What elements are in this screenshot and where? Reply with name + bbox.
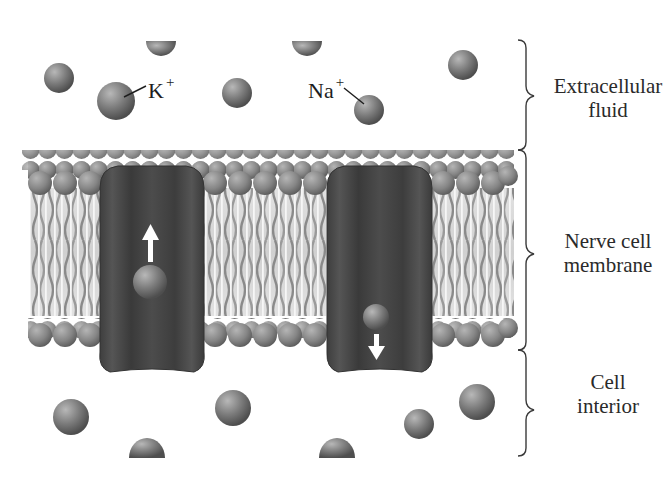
potassium-charge: + bbox=[166, 74, 174, 90]
potassium-ion-in-channel bbox=[133, 265, 167, 299]
sodium-channel bbox=[327, 166, 432, 372]
region-braces bbox=[518, 40, 534, 456]
ion bbox=[215, 390, 251, 426]
ion-channel-diagram: K+ Na+ Extracellular fluid Nerve cell me… bbox=[0, 0, 671, 479]
interior-brace bbox=[518, 350, 534, 456]
extracellular-brace bbox=[518, 40, 534, 150]
label-line: membrane bbox=[545, 253, 671, 277]
label-line: Nerve cell bbox=[545, 229, 671, 253]
label-line: Cell bbox=[545, 370, 671, 394]
ion bbox=[146, 41, 176, 56]
ion bbox=[129, 438, 165, 458]
potassium-symbol: K bbox=[148, 78, 164, 103]
ion bbox=[292, 41, 322, 56]
potassium-channel bbox=[100, 166, 205, 372]
potassium-ion bbox=[97, 82, 135, 120]
interior-ions bbox=[53, 384, 495, 458]
sodium-leader-line bbox=[344, 88, 364, 104]
label-line: fluid bbox=[545, 98, 671, 122]
potassium-label: K+ bbox=[148, 74, 174, 102]
membrane-brace bbox=[518, 150, 534, 350]
ion bbox=[44, 63, 74, 93]
extracellular-fluid-label: Extracellular fluid bbox=[545, 74, 671, 122]
sodium-ion-in-channel bbox=[363, 304, 389, 330]
ion bbox=[222, 78, 252, 108]
lipid-bilayer bbox=[22, 150, 518, 347]
nerve-cell-membrane-label: Nerve cell membrane bbox=[545, 229, 671, 277]
ion bbox=[448, 50, 478, 80]
ion bbox=[404, 409, 434, 439]
label-line: interior bbox=[545, 394, 671, 418]
ion bbox=[53, 399, 89, 435]
ion bbox=[459, 384, 495, 420]
cell-interior-label: Cell interior bbox=[545, 370, 671, 418]
label-line: Extracellular bbox=[545, 74, 671, 98]
sodium-charge: + bbox=[336, 74, 344, 90]
ion bbox=[319, 438, 355, 458]
sodium-label: Na+ bbox=[308, 74, 344, 102]
extracellular-ions bbox=[44, 41, 478, 125]
sodium-symbol: Na bbox=[308, 78, 334, 103]
